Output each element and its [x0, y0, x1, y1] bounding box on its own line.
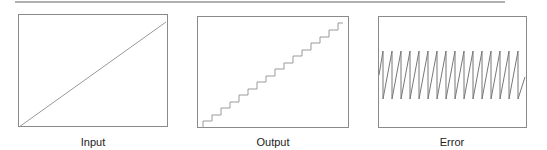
ramp-trace [19, 15, 169, 128]
top-divider [15, 1, 505, 3]
output-plot [197, 16, 349, 128]
error-plot [378, 16, 527, 128]
output-caption: Output [198, 136, 348, 148]
input-caption: Input [18, 136, 168, 148]
input-plot [18, 14, 168, 127]
error-caption: Error [377, 136, 527, 148]
staircase-trace [198, 17, 350, 129]
sawtooth-trace [379, 17, 528, 129]
